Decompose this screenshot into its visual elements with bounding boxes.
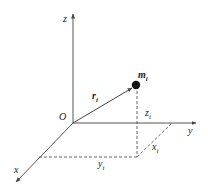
vector-label: ri [92, 90, 98, 104]
x-axis [16, 123, 73, 182]
position-vector [73, 88, 132, 123]
x-axis-label: x [13, 164, 19, 175]
z-component-label: zi [144, 107, 151, 121]
x-component-label: xi [151, 141, 158, 155]
coordinate-diagram: z y x O mi ri zi xi yi [0, 0, 208, 192]
y-axis-label: y [187, 125, 193, 136]
y-component-label: yi [97, 158, 104, 172]
origin-label: O [59, 111, 66, 122]
z-axis-label: z [62, 13, 67, 24]
point-label: mi [138, 69, 148, 83]
mass-point [132, 81, 140, 89]
